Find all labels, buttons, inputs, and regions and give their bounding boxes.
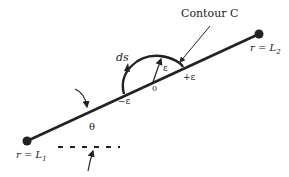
theta-label: θ: [89, 122, 95, 132]
line-segment: [27, 34, 259, 141]
plus-epsilon-label: +ε: [183, 73, 195, 82]
ds-label: ds: [116, 52, 129, 63]
minus-epsilon-label: −ε: [118, 97, 130, 106]
contour-pointer-arrow: [180, 26, 210, 62]
right-endpoint-label: r = L2: [250, 43, 281, 56]
origin-label: 0: [152, 85, 157, 93]
line-pointer-arrow: [75, 89, 87, 107]
left-endpoint-label: r = L1: [16, 150, 47, 163]
angle-pointer-arrow: [88, 151, 93, 171]
contour-diagram: Contour C ds ε −ε +ε 0 θ r = L1 r = L2: [0, 0, 289, 177]
contour-label: Contour C: [181, 8, 238, 19]
epsilon-radius-label: ε: [163, 64, 168, 73]
endpoint-left: [23, 137, 32, 146]
endpoint-right: [255, 30, 264, 39]
